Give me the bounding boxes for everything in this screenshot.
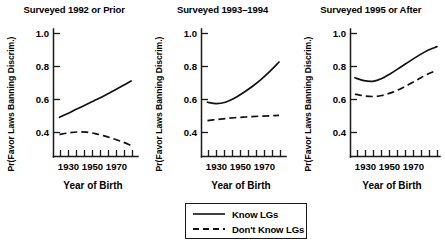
x-tick-label-1970: 1970 (254, 161, 275, 172)
x-axis-label: Year of Birth (362, 180, 421, 191)
y-axis-label: Pr(Favor Laws Banning Discrim.) (6, 36, 16, 171)
x-tick-label-1970: 1970 (402, 161, 423, 172)
y-tick-label-0.4: 0.4 (184, 127, 198, 138)
legend-entry-dont-know-lgs: Don't Know LGs (186, 221, 306, 237)
x-tick-label-1950: 1950 (82, 161, 103, 172)
y-tick-label-0.4: 0.4 (332, 127, 346, 138)
figure-container: Surveyed 1992 or Prior Pr(Favor Laws Ban… (0, 0, 445, 245)
y-tick-label-0.8: 0.8 (184, 61, 198, 72)
x-tick-label-1930: 1930 (206, 161, 227, 172)
series-line-dont-know-lgs (355, 70, 437, 96)
panel-surveyed-1992-or-prior: Surveyed 1992 or Prior Pr(Favor Laws Ban… (0, 0, 148, 196)
series-line-know-lgs (355, 47, 437, 82)
series-line-dont-know-lgs (59, 132, 131, 145)
x-axis-label: Year of Birth (212, 180, 271, 191)
y-tick-marks (202, 34, 208, 133)
plot-area-panel-3: Pr(Favor Laws Banning Discrim.) 1.0 0.8 … (297, 0, 445, 196)
panel-surveyed-1993-1994: Surveyed 1993–1994 Pr(Favor Laws Banning… (148, 0, 296, 196)
legend-swatch-dashed-line (192, 222, 226, 236)
y-tick-label-0.4: 0.4 (36, 127, 50, 138)
x-tick-marks (209, 150, 281, 156)
y-tick-marks (350, 34, 356, 133)
chart-legend: Know LGs Don't Know LGs (185, 203, 307, 239)
y-tick-label-0.8: 0.8 (36, 61, 50, 72)
legend-label: Don't Know LGs (232, 224, 304, 235)
legend-swatch-solid-line (192, 207, 226, 221)
y-tick-label-0.6: 0.6 (332, 94, 345, 105)
series-line-know-lgs (59, 81, 131, 117)
panel-surveyed-1995-or-after: Surveyed 1995 or After Pr(Favor Laws Ban… (297, 0, 445, 196)
y-tick-label-0.6: 0.6 (184, 94, 197, 105)
x-tick-label-1930: 1930 (354, 161, 375, 172)
y-tick-label-1.0: 1.0 (332, 28, 345, 39)
x-tick-label-1970: 1970 (106, 161, 127, 172)
x-axis-label: Year of Birth (63, 180, 122, 191)
x-tick-label-1950: 1950 (378, 161, 399, 172)
x-tick-label-1930: 1930 (58, 161, 79, 172)
series-line-dont-know-lgs (208, 115, 280, 120)
y-tick-label-0.6: 0.6 (36, 94, 49, 105)
series-line-know-lgs (208, 62, 280, 104)
y-tick-label-1.0: 1.0 (36, 28, 49, 39)
x-tick-marks (60, 150, 132, 156)
y-axis-label: Pr(Favor Laws Banning Discrim.) (303, 36, 313, 171)
legend-entry-know-lgs: Know LGs (186, 206, 306, 222)
plot-area-panel-1: Pr(Favor Laws Banning Discrim.) 1.0 0.8 … (0, 0, 148, 196)
plot-area-panel-2: Pr(Favor Laws Banning Discrim.) 1.0 0.8 … (148, 0, 296, 196)
y-tick-label-0.8: 0.8 (332, 61, 346, 72)
x-tick-label-1950: 1950 (230, 161, 251, 172)
y-tick-label-1.0: 1.0 (184, 28, 197, 39)
x-tick-marks (357, 150, 437, 156)
y-axis-label: Pr(Favor Laws Banning Discrim.) (154, 36, 164, 171)
panel-row: Surveyed 1992 or Prior Pr(Favor Laws Ban… (0, 0, 445, 196)
legend-label: Know LGs (232, 209, 278, 220)
